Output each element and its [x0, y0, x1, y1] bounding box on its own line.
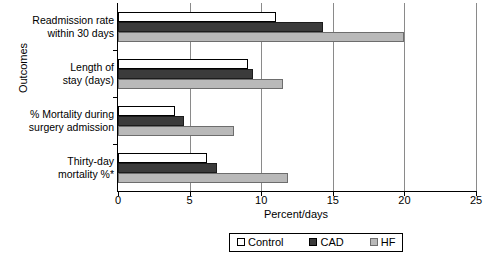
bar-cad — [118, 163, 217, 173]
bar-cad — [118, 116, 184, 126]
bar-hf — [118, 173, 288, 183]
category-label: Readmission ratewithin 30 days — [18, 14, 114, 39]
bar-control — [118, 106, 175, 116]
bar-hf — [118, 79, 283, 89]
x-axis-tick-labels: 0510152025 — [117, 194, 475, 208]
category-label-line: Length of — [18, 61, 114, 74]
category-label: Thirty-daymortality %* — [18, 155, 114, 180]
y-axis-tick — [113, 144, 118, 145]
x-gridline — [476, 3, 477, 191]
legend-label: Control — [248, 236, 283, 248]
x-tick-label: 15 — [327, 194, 339, 206]
legend-swatch-icon — [237, 238, 245, 246]
legend-item-hf[interactable]: HF — [370, 236, 396, 248]
x-tick-label: 20 — [398, 194, 410, 206]
bar-control — [118, 12, 276, 22]
plot-area — [117, 3, 476, 192]
legend-label: CAD — [320, 236, 343, 248]
bar-control — [118, 153, 207, 163]
x-axis-title: Percent/days — [117, 208, 475, 220]
legend-label: HF — [381, 236, 396, 248]
category-label-line: mortality %* — [18, 168, 114, 181]
bar-cad — [118, 22, 323, 32]
legend-item-control[interactable]: Control — [237, 236, 283, 248]
bar-hf — [118, 32, 404, 42]
legend-swatch-icon — [370, 238, 378, 246]
category-label-line: within 30 days — [18, 27, 114, 40]
x-tick-label: 0 — [115, 194, 121, 206]
legend-item-cad[interactable]: CAD — [309, 236, 343, 248]
x-tick-label: 10 — [255, 194, 267, 206]
y-axis-tick — [113, 50, 118, 51]
category-label-line: Thirty-day — [18, 155, 114, 168]
bar-hf — [118, 126, 234, 136]
category-label-line: surgery admission — [18, 121, 114, 134]
chart-legend: ControlCADHF — [229, 233, 403, 252]
x-gridline — [404, 3, 405, 191]
y-axis-tick — [113, 97, 118, 98]
legend-swatch-icon — [309, 238, 317, 246]
category-label: Length ofstay (days) — [18, 61, 114, 86]
bar-cad — [118, 69, 253, 79]
bar-chart-figure: Outcomes Readmission ratewithin 30 daysL… — [0, 0, 499, 257]
category-label-line: % Mortality during — [18, 108, 114, 121]
category-label-line: stay (days) — [18, 74, 114, 87]
category-axis-labels: Readmission ratewithin 30 daysLength ofs… — [18, 0, 114, 192]
bar-control — [118, 59, 248, 69]
category-label-line: Readmission rate — [18, 14, 114, 27]
category-label: % Mortality duringsurgery admission — [18, 108, 114, 133]
x-tick-label: 5 — [187, 194, 193, 206]
x-tick-label: 25 — [470, 194, 482, 206]
